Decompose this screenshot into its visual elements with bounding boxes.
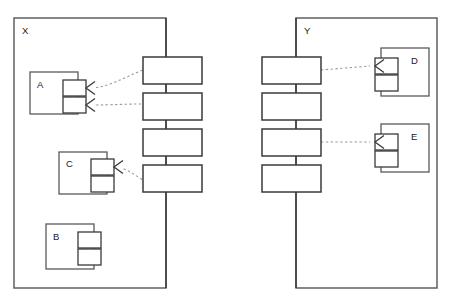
port-box[interactable]: [63, 80, 86, 96]
node-box[interactable]: [262, 57, 321, 84]
component-label: B: [53, 231, 59, 242]
component-label: A: [37, 79, 44, 90]
port-box[interactable]: [78, 249, 101, 265]
component-diagram: XY ABCDE: [0, 0, 456, 302]
node-box[interactable]: [143, 129, 202, 156]
node-box[interactable]: [143, 57, 202, 84]
component-label: C: [66, 158, 73, 169]
node-box[interactable]: [143, 93, 202, 120]
node-box[interactable]: [262, 129, 321, 156]
spines-layer: [143, 18, 321, 288]
component-d: D: [375, 48, 429, 96]
container-label: X: [22, 25, 29, 36]
node-box[interactable]: [262, 93, 321, 120]
port-box[interactable]: [63, 97, 86, 113]
component-e: E: [375, 124, 429, 172]
component-b: B: [46, 224, 101, 269]
component-label: E: [411, 131, 417, 142]
component-label: D: [411, 55, 418, 66]
node-box[interactable]: [143, 165, 202, 192]
port-box[interactable]: [375, 151, 398, 167]
container-label: Y: [304, 25, 311, 36]
port-box[interactable]: [91, 176, 114, 192]
port-box[interactable]: [78, 232, 101, 248]
port-box[interactable]: [91, 159, 114, 175]
diagram-canvas: XY ABCDE: [0, 0, 456, 302]
port-box[interactable]: [375, 75, 398, 91]
node-box[interactable]: [262, 165, 321, 192]
